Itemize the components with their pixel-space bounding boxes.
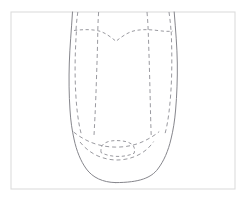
line-drawing-canvas <box>0 0 246 201</box>
figure-root <box>0 0 246 201</box>
image-border-frame <box>11 12 235 189</box>
